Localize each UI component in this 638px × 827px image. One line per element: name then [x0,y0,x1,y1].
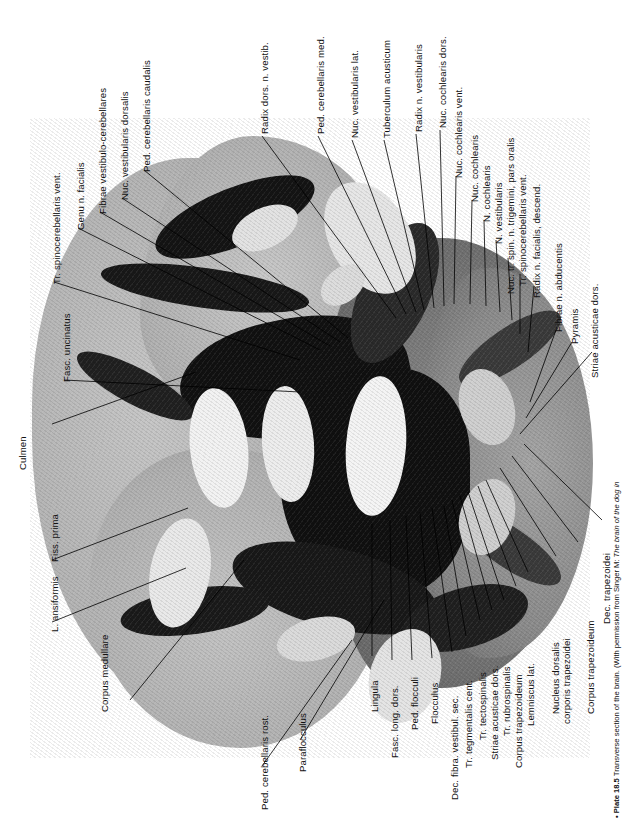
label-fibrae-vestibulo-cerebellares: Fibrae vestibulo-cerebellares [98,88,109,214]
caption-plate-number: Plate 18.5 [612,778,621,813]
label-culmen: Culmen [18,436,29,470]
label-nucleus-dorsalis-line1: Nucleus dorsalis [550,642,561,714]
label-corpus-medullare: Corpus medullare [100,635,111,712]
label-fasc-uncinatus: Fasc. uncinatus [62,313,73,382]
label-nuc-cochlearis-vent: Nuc. cochlearis vent. [454,87,465,178]
label-corporis-trapezoidei-line2: corporis trapezoidei [561,638,572,724]
figure-caption: • Plate 18.5 Transverse section of the b… [612,348,622,818]
label-corpus-trapezoideum-right: Corpus trapezoideum [586,620,597,714]
figure-page: Tr. spinocerebellaris vent. Genu n. faci… [0,0,638,827]
label-ped-flocculi: Ped. flocculi [410,677,421,730]
label-fasc-long-dors: Fasc. long. dors. [390,685,401,758]
label-corpus-trapezoideum-lower: Corpus trapezoideum [514,674,525,768]
label-flocculus: Flocculus [430,683,441,724]
label-tuberculum-acusticum: Tuberculum acusticum [382,40,393,138]
label-ped-cerebellaris-caudalis: Ped. cerebellaris caudalis [142,60,153,172]
label-genu-n-facialis: Genu n. facialis [76,162,87,230]
caption-bullet: • [612,815,621,818]
label-radix-dors-n-vestib: Radix dors. n. vestib. [260,42,271,134]
label-fibrae-n-abducentis: Fibrae n. abducentis [554,243,565,332]
label-paraflocculus: Paraflocculus [298,713,309,772]
label-ped-cerebellaris-med: Ped. cerebellaris med. [316,36,327,134]
label-tr-spinocerebellaris-vent-right: Tr. spinocerebellaris vent. [518,174,529,286]
label-lingula: Lingula [370,680,381,712]
label-tr-rubrospinalis: Tr. rubrospinalis [502,666,513,736]
label-l-ansiformis: L. ansiformis [50,576,61,632]
label-ped-cerebellaris-rost: Ped. cerebellaris rost. [260,715,271,810]
label-tr-spinocerebellaris-vent: Tr. spinocerebellaris vent. [52,172,63,284]
label-nuc-tr-spin-n-trigemini-pars-oralis: Nuc. tr. spin. n. trigemini, pars oralis [506,138,517,295]
label-fiss-prima: Fiss. prima [50,514,61,562]
label-nuc-cochlearis: Nuc. cochlearis [470,135,481,202]
label-nuc-cochlearis-dors: Nuc. cochlearis dors. [438,36,449,128]
label-dec-fibra-vestibul-sec: Dec. fibra. vestibul. sec. [450,696,461,800]
label-striae-acusticae-dors: Striae acusticae dors. [490,666,501,760]
label-radix-n-facialis-descend: Radix n. facialis, descend. [532,184,543,298]
label-n-vestibularis: N. vestibularis [494,182,505,244]
label-lemniscus-lat: Lemniscus lat. [526,663,537,726]
label-tr-tegmentalis-cent: Tr. tegmentalis cent. [464,680,475,768]
label-radix-n-vestibularis: Radix n. vestibularis [414,44,425,132]
caption-text: Transverse section of the brain. (With p… [612,560,621,777]
label-n-cochlearis: N. cochlearis [482,165,493,222]
label-tr-tectospinalis: Tr. tectospinalis [478,672,489,740]
label-nuc-vestibularis-lat: Nuc. vestibularis lat. [350,50,361,138]
label-nuc-vestibularis-dorsalis: Nuc. vestibularis dorsalis [120,91,131,200]
label-striae-acusticae-dors-right: Striae acusticae dors. [590,284,601,378]
label-pyramis: Pyramis [570,309,581,344]
caption-source-title: The brain of the dog in [612,481,621,557]
